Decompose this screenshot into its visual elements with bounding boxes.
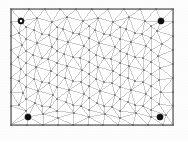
- mesh-vertex: [35, 66, 37, 68]
- mesh-vertex: [56, 86, 58, 88]
- mesh-vertex: [119, 117, 121, 119]
- corner-marker-bottom-right: [157, 114, 163, 120]
- mesh-vertex: [143, 69, 145, 71]
- mesh-vertex: [142, 105, 144, 107]
- mesh-vertex: [36, 17, 38, 19]
- mesh-vertex: [141, 33, 143, 35]
- mesh-vertex: [42, 113, 44, 115]
- mesh-vertex: [41, 33, 43, 35]
- mesh-vertex: [41, 81, 43, 83]
- mesh-vertex: [150, 109, 152, 111]
- mesh-vertex: [158, 79, 160, 81]
- mesh-vertex: [21, 44, 23, 46]
- mesh-vertex: [158, 103, 160, 105]
- mesh-vertex: [48, 34, 50, 36]
- mesh-vertex: [18, 104, 20, 106]
- mesh-vertex: [25, 38, 27, 40]
- mesh-vertex: [33, 78, 35, 80]
- mesh-vertex: [119, 50, 121, 52]
- mesh-vertex: [98, 42, 100, 44]
- mesh-vertex: [47, 58, 49, 60]
- mesh-vertex: [150, 37, 152, 39]
- mesh-vertex: [156, 30, 158, 32]
- mesh-vertex: [25, 98, 27, 100]
- mesh-vertex: [127, 101, 129, 103]
- mesh-vertex: [114, 94, 116, 96]
- mesh-vertex: [68, 89, 70, 91]
- mesh-vertex: [128, 65, 130, 67]
- mesh-vertex: [150, 73, 152, 75]
- mesh-vertex: [112, 21, 114, 23]
- mesh-vertex: [119, 110, 121, 112]
- mesh-vertex: [128, 16, 130, 18]
- mesh-vertex: [72, 56, 74, 58]
- mesh-vertex: [66, 65, 68, 67]
- mesh-vertex: [34, 102, 36, 104]
- mesh-vertex: [165, 114, 167, 116]
- mesh-vertex: [88, 37, 90, 39]
- mesh-vertex: [83, 45, 85, 47]
- mesh-vertex: [134, 32, 136, 34]
- mesh-vertex: [41, 105, 43, 107]
- mesh-vertex: [96, 102, 98, 104]
- mesh-vertex: [119, 86, 121, 88]
- mesh-vertex: [95, 78, 97, 80]
- mesh-vertex: [51, 46, 53, 48]
- mesh-vertex: [134, 104, 136, 106]
- mesh-vertex: [150, 85, 152, 87]
- mesh-vertex: [157, 55, 159, 57]
- mesh-vertex: [119, 38, 121, 40]
- mesh-vertex: [25, 26, 27, 28]
- mesh-vertex: [103, 33, 105, 35]
- mesh-vertex: [25, 50, 27, 52]
- mesh-vertex: [82, 20, 84, 22]
- mesh-vertex: [104, 113, 106, 115]
- mesh-vertex: [37, 90, 39, 92]
- mesh-vertex: [99, 90, 101, 92]
- mesh-vertex: [72, 32, 74, 34]
- corner-marker-top-right: [158, 18, 164, 24]
- mesh-vertex: [80, 105, 82, 107]
- mesh-vertex: [112, 70, 114, 72]
- mesh-vertex: [25, 74, 27, 76]
- mesh-vertex: [56, 98, 58, 100]
- mesh-vertex: [56, 50, 58, 52]
- mesh-vertex: [33, 29, 35, 31]
- mesh-vertex: [48, 82, 50, 84]
- mesh-vertex: [94, 29, 96, 31]
- mesh-vertex: [80, 81, 82, 83]
- mesh-vertex: [142, 57, 144, 59]
- mesh-vertex: [49, 106, 51, 108]
- mesh-vertex: [127, 77, 129, 79]
- mesh-vertex: [134, 80, 136, 82]
- mesh-vertex: [95, 54, 97, 56]
- mesh-vertex: [56, 38, 58, 40]
- mesh-vertex: [25, 110, 27, 112]
- mesh-vertex: [145, 45, 147, 47]
- mesh-vertex: [88, 61, 90, 63]
- mesh-vertex: [150, 97, 152, 99]
- mesh-vertex: [17, 56, 19, 58]
- mesh-figure: [0, 0, 188, 142]
- mesh-vertex: [150, 25, 152, 27]
- mesh-vertex: [119, 74, 121, 76]
- mesh-vertex: [111, 82, 113, 84]
- mesh-vertex: [62, 28, 64, 30]
- mesh-vertex: [18, 32, 20, 34]
- mesh-vertex: [22, 92, 24, 94]
- mesh-vertex: [145, 93, 147, 95]
- mesh-vertex: [57, 117, 59, 119]
- mesh-vertex: [103, 105, 105, 107]
- mesh-vertex: [20, 68, 22, 70]
- mesh-vertex: [114, 46, 116, 48]
- mesh-vertex: [161, 43, 163, 45]
- mesh-vertex: [25, 62, 27, 64]
- mesh-vertex: [119, 26, 121, 28]
- mesh-vertex: [97, 17, 99, 19]
- corner-marker-top-left-hole: [20, 20, 23, 23]
- mesh-vertex: [18, 80, 20, 82]
- mesh-vertex: [36, 42, 38, 44]
- mesh-vertex: [103, 81, 105, 83]
- delaunay-mesh-plot: [0, 0, 188, 142]
- mesh-vertex: [110, 58, 112, 60]
